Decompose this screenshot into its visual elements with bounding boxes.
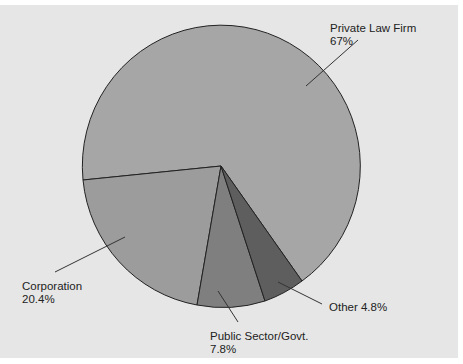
leader-other xyxy=(278,282,322,304)
label-private-value: 67% xyxy=(330,35,416,48)
label-private-law-firm: Private Law Firm 67% xyxy=(330,22,416,48)
label-other: Other 4.8% xyxy=(329,301,387,314)
label-corporation-value: 20.4% xyxy=(22,293,82,306)
label-private-name: Private Law Firm xyxy=(330,22,416,35)
label-corporation-name: Corporation xyxy=(22,280,82,293)
label-public-sector: Public Sector/Govt. 7.8% xyxy=(210,330,308,356)
label-public-name: Public Sector/Govt. xyxy=(210,330,308,343)
pie-chart xyxy=(0,0,463,364)
label-other-text: Other 4.8% xyxy=(329,301,387,314)
label-corporation: Corporation 20.4% xyxy=(22,280,82,306)
label-public-value: 7.8% xyxy=(210,343,308,356)
